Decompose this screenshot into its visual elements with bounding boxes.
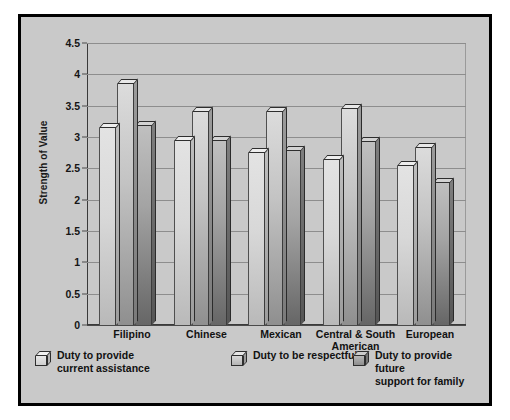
bar-side-face [450, 177, 454, 325]
legend-swatch-icon [35, 351, 50, 366]
bar-front-face [323, 159, 340, 325]
legend-label: Duty to provide future support for famil… [375, 349, 479, 388]
bar-group [248, 43, 314, 325]
legend-item-1[interactable]: Duty to provide current assistance [35, 349, 150, 375]
legend-item-2[interactable]: Duty to be respectful [231, 349, 357, 366]
legend-label: Duty to provide current assistance [57, 349, 150, 375]
y-tick-mark [82, 262, 87, 263]
y-tick-mark [82, 105, 87, 106]
bar-top-face [192, 107, 213, 112]
y-tick-label: 1.5 [65, 225, 80, 237]
bar-group [174, 43, 240, 325]
bar-side-face [209, 106, 213, 325]
y-axis-title: Strength of Value [38, 103, 49, 223]
legend-item-3[interactable]: Duty to provide future support for famil… [353, 349, 479, 388]
y-tick-label: 4 [74, 68, 80, 80]
bar-series-1 [248, 148, 265, 325]
bar-group [397, 43, 463, 325]
y-tick-mark [82, 168, 87, 169]
bar-side-face [432, 143, 436, 325]
legend-swatch-icon [231, 351, 246, 366]
bar-group [323, 43, 389, 325]
y-tick-label: 3.5 [65, 100, 80, 112]
legend-label: Duty to be respectful [253, 349, 357, 362]
bar-side-face [227, 135, 231, 325]
y-tick-mark [82, 137, 87, 138]
bar-series-1 [174, 136, 191, 325]
plot-wrapper: Strength of Value 00.511.522.533.544.5 F… [21, 17, 489, 403]
bar-side-face [116, 123, 120, 325]
legend-swatch-front [231, 355, 243, 366]
y-tick-label: 1 [74, 256, 80, 268]
bar-top-face [323, 155, 344, 160]
bar-side-face [414, 160, 418, 325]
plot-area: 00.511.522.533.544.5 [87, 43, 466, 325]
bar-side-face [376, 137, 380, 325]
bar-front-face [99, 127, 116, 325]
plot-right-edge [465, 43, 466, 325]
bar-side-face [301, 146, 305, 325]
y-tick-label: 0 [74, 319, 80, 331]
y-tick-mark [82, 74, 87, 75]
y-tick-label: 4.5 [65, 37, 80, 49]
bar-series-1 [397, 161, 414, 325]
y-tick-mark [82, 293, 87, 294]
bar-side-face [191, 135, 195, 325]
y-tick-mark [82, 199, 87, 200]
legend-swatch-front [353, 355, 365, 366]
bar-front-face [397, 165, 414, 325]
category-label-5: European [383, 329, 477, 341]
bar-front-face [174, 140, 191, 325]
bar-side-face [358, 104, 362, 325]
y-tick-label: 0.5 [65, 288, 80, 300]
bar-front-face [248, 152, 265, 325]
y-tick-label: 2 [74, 194, 80, 206]
y-tick-label: 2.5 [65, 162, 80, 174]
gridline [87, 325, 466, 326]
y-tick-mark [82, 231, 87, 232]
y-tick-label: 3 [74, 131, 80, 143]
y-tick-mark [82, 43, 87, 44]
bar-series-1 [99, 123, 116, 325]
bar-side-face [283, 106, 287, 325]
y-axis-line [87, 43, 88, 325]
bar-side-face [152, 121, 156, 325]
bar-series-1 [323, 155, 340, 325]
bar-top-face [174, 136, 195, 141]
legend-swatch-icon [353, 351, 368, 366]
chart-figure: Strength of Value 00.511.522.533.544.5 F… [18, 14, 492, 406]
bar-group [99, 43, 165, 325]
bar-side-face [340, 154, 344, 325]
legend-swatch-front [35, 355, 47, 366]
bar-side-face [265, 147, 269, 325]
bar-side-face [134, 78, 138, 325]
chart-legend: Duty to provide current assistanceDuty t… [35, 349, 479, 395]
